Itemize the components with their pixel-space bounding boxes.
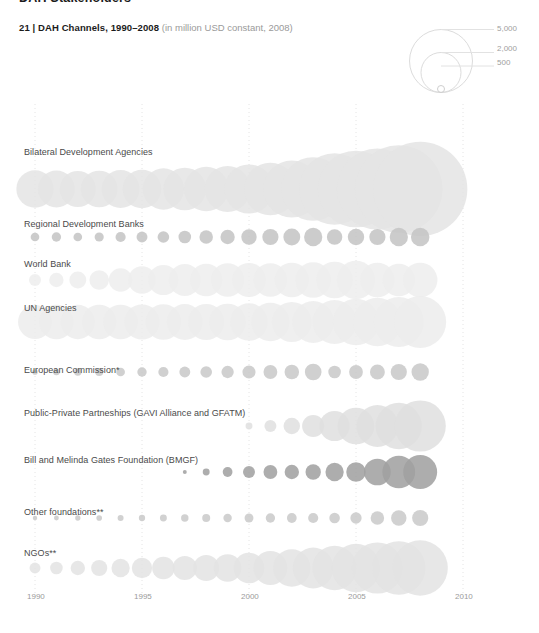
bubble xyxy=(262,229,278,245)
figure-subtitle: (in million USD constant, 2008) xyxy=(159,22,293,33)
bubble xyxy=(116,232,126,242)
bubble-row-8 xyxy=(30,540,448,595)
bubble xyxy=(394,296,446,348)
bubble xyxy=(245,514,254,523)
bubble xyxy=(391,364,407,380)
bubble xyxy=(263,465,277,479)
bubble-row-1 xyxy=(31,228,430,246)
bubble xyxy=(179,367,190,378)
bubble xyxy=(346,462,366,482)
bubble xyxy=(31,233,40,242)
bubble xyxy=(49,273,63,287)
bubble xyxy=(393,540,448,595)
bubble xyxy=(158,367,168,377)
row-label-3: UN Agencies xyxy=(24,303,77,313)
legend-circle-2000 xyxy=(421,53,461,93)
bubble xyxy=(152,557,175,580)
row-label-4: European Commission* xyxy=(24,365,120,375)
legend-label-2000: 2,000 xyxy=(497,44,517,53)
row-label-1: Regional Development Banks xyxy=(24,219,144,229)
bubble xyxy=(95,232,104,241)
bubble xyxy=(284,418,300,434)
legend-label-500: 500 xyxy=(497,58,510,67)
bubble xyxy=(71,561,85,575)
x-tick-2005: 2005 xyxy=(348,592,366,601)
bubble xyxy=(220,230,234,244)
bubble xyxy=(412,363,429,380)
bubble xyxy=(370,365,385,380)
bubble xyxy=(305,464,320,479)
row-label-5: Public-Private Partneships (GAVI Allianc… xyxy=(24,408,245,418)
bubble xyxy=(199,230,213,244)
bubble xyxy=(223,467,233,477)
x-axis: 19901995200020052010 xyxy=(0,592,539,606)
bubble xyxy=(329,513,340,524)
bubble xyxy=(348,229,364,245)
bubble xyxy=(371,511,385,525)
bubble xyxy=(266,513,275,522)
bubble xyxy=(403,263,438,298)
bubble-row-6 xyxy=(183,455,437,489)
bubble xyxy=(139,515,145,521)
bubble xyxy=(73,233,82,242)
bubble xyxy=(223,514,231,522)
bubble xyxy=(183,470,187,474)
bubble xyxy=(202,514,210,522)
bubble xyxy=(328,366,341,379)
bubble xyxy=(91,560,107,576)
bubble xyxy=(327,229,342,244)
bubble xyxy=(350,512,361,523)
bubble xyxy=(395,400,446,451)
bubble xyxy=(263,365,277,379)
bubble-chart-svg xyxy=(0,104,539,604)
bubble xyxy=(30,563,41,574)
x-tick-1990: 1990 xyxy=(27,592,45,601)
bubble xyxy=(285,465,299,479)
bubble xyxy=(242,365,255,378)
bubble xyxy=(132,558,152,578)
bubble xyxy=(305,364,322,381)
bubble xyxy=(287,513,297,523)
figure-caption: 21 | DAH Channels, 1990–2008 (in million… xyxy=(19,21,293,34)
bubble xyxy=(111,559,129,577)
bubble-size-legend: 5,000 2,000 500 xyxy=(408,26,539,96)
bubble xyxy=(285,365,300,380)
x-tick-2000: 2000 xyxy=(241,592,259,601)
x-tick-1995: 1995 xyxy=(134,592,152,601)
bubble xyxy=(69,272,86,289)
bubble xyxy=(137,232,148,243)
bubble xyxy=(203,469,210,476)
bubble xyxy=(373,142,467,236)
bubble xyxy=(29,274,41,286)
legend-circle-5000 xyxy=(410,30,473,93)
row-label-6: Bill and Melinda Gates Foundation (BMGF) xyxy=(24,455,198,465)
bubble xyxy=(304,228,322,246)
figure-title: DAH Channels, 1990–2008 xyxy=(38,22,159,33)
bubble xyxy=(308,513,318,523)
bubble xyxy=(221,366,233,378)
row-label-8: NGOs** xyxy=(24,548,56,558)
bubble xyxy=(349,365,363,379)
bubble xyxy=(89,270,109,290)
bubble-row-2 xyxy=(29,261,437,299)
bubble xyxy=(118,515,124,521)
bubble xyxy=(243,466,255,478)
bubble xyxy=(200,366,212,378)
section-header: DAH Stakeholders xyxy=(19,0,131,5)
bubble xyxy=(50,562,63,575)
bubble xyxy=(181,514,188,521)
bubble-row-3 xyxy=(18,296,446,348)
bubble xyxy=(390,228,408,246)
legend-circles xyxy=(408,26,539,96)
bubble xyxy=(411,228,429,246)
row-label-2: World Bank xyxy=(24,259,71,269)
x-tick-2010: 2010 xyxy=(455,592,473,601)
bubble xyxy=(158,231,170,243)
bubble xyxy=(241,229,256,244)
bubble xyxy=(325,463,343,481)
bubble xyxy=(403,455,437,489)
bubble xyxy=(179,231,192,244)
bubble-row-5 xyxy=(246,400,446,451)
bubble xyxy=(246,423,253,430)
bubble xyxy=(160,515,167,522)
